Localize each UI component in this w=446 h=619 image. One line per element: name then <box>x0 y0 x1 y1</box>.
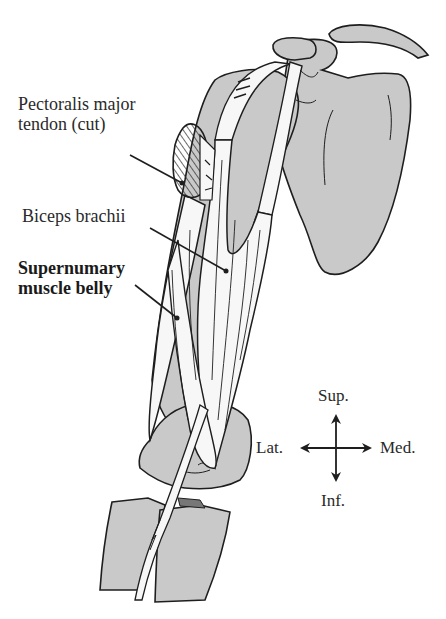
anatomy-illustration <box>0 0 446 619</box>
label-supernumary: Supernumary muscle belly <box>18 258 125 298</box>
compass-inf-label: Inf. <box>321 492 345 510</box>
compass-sup-label: Sup. <box>318 387 349 405</box>
label-biceps-line1: Biceps brachii <box>22 206 125 226</box>
label-supernumary-line1: Supernumary <box>18 258 125 278</box>
label-pectoralis: Pectoralis major tendon (cut) <box>18 94 135 134</box>
label-supernumary-line2: muscle belly <box>18 278 125 298</box>
label-pectoralis-line1: Pectoralis major <box>18 94 135 114</box>
orientation-compass <box>302 416 370 480</box>
compass-lat-label: Lat. <box>256 439 283 457</box>
scapula <box>273 25 428 274</box>
compass-med-label: Med. <box>380 439 415 457</box>
label-biceps: Biceps brachii <box>22 206 125 226</box>
label-pectoralis-line2: tendon (cut) <box>18 114 135 134</box>
